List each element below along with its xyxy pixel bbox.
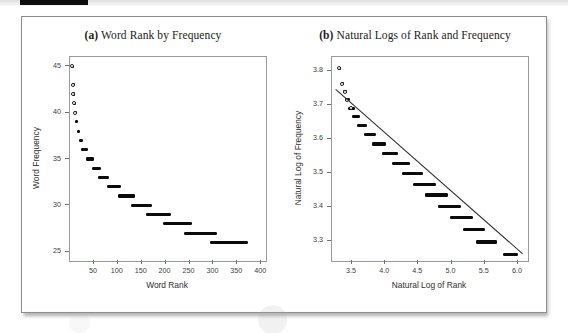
data-point-run <box>81 148 87 151</box>
data-point-run <box>364 133 376 136</box>
plot-area-a <box>69 56 267 262</box>
data-point-run <box>402 172 423 175</box>
panel-b-tag: (b) <box>319 29 333 41</box>
y-tick <box>65 251 69 252</box>
data-point-run <box>210 241 248 244</box>
data-point-run <box>146 213 172 216</box>
data-point-run <box>107 185 121 188</box>
axis-title-y-a: Word Frequency <box>31 56 41 260</box>
x-tick-label: 4.5 <box>403 266 431 275</box>
y-tick <box>327 138 331 139</box>
data-point-run <box>438 205 461 208</box>
panel-a: (a) Word Rank by Frequency 2530354045501… <box>22 17 284 312</box>
data-point-run <box>92 167 101 170</box>
panel-a-title-text: Word Rank by Frequency <box>101 29 221 41</box>
data-point-run <box>503 253 518 256</box>
data-point-open <box>340 82 344 86</box>
x-tick <box>484 260 485 264</box>
x-tick-label: 5.0 <box>437 266 465 275</box>
data-point-run <box>425 193 448 196</box>
x-tick <box>451 260 452 264</box>
data-point-run <box>75 120 78 123</box>
x-tick-label: 3.5 <box>337 266 365 275</box>
x-tick-label: 5.5 <box>470 266 498 275</box>
panel-b-title-text: Natural Logs of Rank and Frequency <box>337 29 511 41</box>
data-point-run <box>357 124 367 127</box>
data-point-run <box>372 142 387 145</box>
data-point-run <box>79 139 83 142</box>
data-point-run <box>118 194 136 197</box>
data-point-run <box>77 130 80 133</box>
data-point-open <box>337 66 341 70</box>
x-tick-label: 4.0 <box>370 266 398 275</box>
panel-b-title: (b) Natural Logs of Rank and Frequency <box>284 29 546 41</box>
data-point-open <box>71 83 75 87</box>
figure-drop-shadow <box>24 313 548 318</box>
data-point-run <box>163 222 192 225</box>
data-point-run <box>450 216 473 219</box>
panel-a-tag: (a) <box>85 29 99 41</box>
x-tick-label: 400 <box>246 266 274 275</box>
x-tick <box>141 260 142 264</box>
data-point-run <box>476 240 497 243</box>
data-point-open <box>73 111 77 115</box>
x-tick <box>212 260 213 264</box>
y-tick <box>327 104 331 105</box>
data-point-run <box>463 228 485 231</box>
y-tick <box>327 70 331 71</box>
plot-marks-a <box>70 57 266 261</box>
x-tick <box>117 260 118 264</box>
axis-title-x-a: Word Rank <box>69 280 265 290</box>
data-point-run <box>392 162 411 165</box>
panel-b: (b) Natural Logs of Rank and Frequency 3… <box>284 17 546 312</box>
y-tick <box>65 204 69 205</box>
plot-area-b <box>331 56 529 262</box>
x-tick <box>93 260 94 264</box>
y-tick <box>327 240 331 241</box>
plot-marks-b <box>332 57 528 261</box>
data-point-run <box>86 157 94 160</box>
data-point-open <box>343 90 347 94</box>
data-point-run <box>98 176 109 179</box>
data-point-run <box>184 232 217 235</box>
x-tick-label: 6.0 <box>503 266 531 275</box>
axis-title-y-b: Natural Log of Frequency <box>293 56 303 260</box>
data-point-run <box>382 152 399 155</box>
regression-line <box>335 89 522 254</box>
data-point-run <box>352 115 360 118</box>
data-point-open <box>70 64 74 68</box>
x-tick <box>260 260 261 264</box>
y-tick <box>327 172 331 173</box>
x-tick <box>165 260 166 264</box>
scan-black-mark <box>20 0 88 5</box>
axis-title-x-b: Natural Log of Rank <box>331 280 527 290</box>
y-tick <box>65 112 69 113</box>
x-tick <box>236 260 237 264</box>
y-tick <box>327 206 331 207</box>
data-point-open <box>72 101 76 105</box>
x-tick <box>417 260 418 264</box>
figure-frame: (a) Word Rank by Frequency 2530354045501… <box>21 16 547 313</box>
x-tick <box>517 260 518 264</box>
data-point-run <box>413 183 436 186</box>
x-tick <box>351 260 352 264</box>
x-tick <box>384 260 385 264</box>
data-point-run <box>131 204 153 207</box>
panel-a-title: (a) Word Rank by Frequency <box>22 29 284 41</box>
x-tick <box>189 260 190 264</box>
y-tick <box>65 158 69 159</box>
y-tick <box>65 65 69 66</box>
